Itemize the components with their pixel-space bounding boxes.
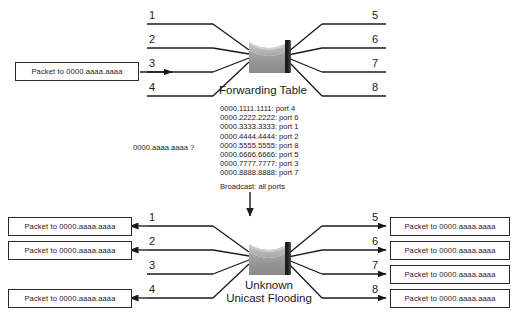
unicast-title-line2: Unicast Flooding [210,292,328,305]
port-number: 2 [149,235,155,247]
forwarding-table-row: 0000.5555.5555: port 8 [220,141,299,150]
port-label-bottom-right-8: 8 [368,283,382,295]
port-number: 3 [149,57,155,69]
packet-label: Packet to 0000.aaaa.aaaa [24,294,115,303]
port-number: 5 [372,211,378,223]
port-label-bottom-right-7: 7 [368,259,382,271]
forwarding-table-title: Forwarding Table [219,84,307,96]
port-number: 7 [372,57,378,69]
packet-label: Packet to 0000.aaaa.aaaa [404,270,495,279]
port-number: 6 [372,235,378,247]
port-label-top-right-5: 5 [368,9,382,21]
port-number: 2 [149,33,155,45]
egress-packet-box-bottom-left-1: Packet to 0000.aaaa.aaaa [8,217,132,236]
port-label-bottom-left-2: 2 [145,235,159,247]
forwarding-table-row: 0000.2222.2222: port 6 [220,113,299,122]
port-number: 8 [372,283,378,295]
port-label-top-left-1: 1 [145,9,159,21]
port-number: 4 [149,283,155,295]
port-label-bottom-right-5: 5 [368,211,382,223]
forwarding-table-row: 0000.4444.4444: port 2 [220,132,299,141]
forwarding-table-row: 0000.3333.3333: port 1 [220,122,299,131]
packet-label: Packet to 0000.aaaa.aaaa [24,246,115,255]
packet-label: Packet to 0000.aaaa.aaaa [404,246,495,255]
egress-packet-box-bottom-right-8: Packet to 0000.aaaa.aaaa [390,289,510,308]
port-label-top-left-2: 2 [145,33,159,45]
packet-label: Packet to 0000.aaaa.aaaa [31,67,122,76]
port-number: 7 [372,259,378,271]
forwarding-table-row: 0000.6666.6666: port 5 [220,150,299,159]
packet-label: Packet to 0000.aaaa.aaaa [404,222,495,231]
port-label-top-left-4: 4 [145,81,159,93]
port-label-top-right-7: 7 [368,57,382,69]
egress-packet-box-bottom-left-2: Packet to 0000.aaaa.aaaa [8,241,132,260]
ingress-packet-box-top: Packet to 0000.aaaa.aaaa [15,62,139,81]
port-label-bottom-left-3: 3 [145,259,159,271]
forwarding-table-row: 0000.8888.8888: port 7 [220,168,299,177]
network-switch-flooding-diagram: Packet to 0000.aaaa.aaaa 1 2 3 4 5 6 7 8… [0,0,515,330]
switch-icon-bottom [249,242,291,275]
switch-icon-top [249,40,291,73]
port-number: 5 [372,9,378,21]
mac-lookup-query-label: 0000.aaaa.aaaa ? [133,143,194,152]
port-label-bottom-left-4: 4 [145,283,159,295]
forwarding-table-row: 0000.7777.7777: port 3 [220,159,299,168]
port-number: 6 [372,33,378,45]
forwarding-table-entries: 0000.1111.1111: port 4 0000.2222.2222: p… [220,104,299,178]
broadcast-all-ports-label: Broadcast: all ports [220,182,285,191]
egress-packet-box-bottom-right-6: Packet to 0000.aaaa.aaaa [390,241,510,260]
unicast-title-line1: Unknown [210,279,328,292]
port-label-bottom-right-6: 6 [368,235,382,247]
forwarding-table-row: 0000.1111.1111: port 4 [220,104,299,113]
port-number: 4 [149,81,155,93]
egress-packet-box-bottom-right-7: Packet to 0000.aaaa.aaaa [390,265,510,284]
packet-label: Packet to 0000.aaaa.aaaa [24,222,115,231]
egress-packet-box-bottom-left-4: Packet to 0000.aaaa.aaaa [8,289,132,308]
port-label-top-left-3: 3 [145,57,159,69]
port-label-bottom-left-1: 1 [145,211,159,223]
egress-packet-box-bottom-right-5: Packet to 0000.aaaa.aaaa [390,217,510,236]
port-label-top-right-6: 6 [368,33,382,45]
port-number: 3 [149,259,155,271]
packet-label: Packet to 0000.aaaa.aaaa [404,294,495,303]
port-label-top-right-8: 8 [368,81,382,93]
unknown-unicast-flooding-title: Unknown Unicast Flooding [210,279,328,305]
port-number: 1 [149,211,155,223]
port-number: 8 [372,81,378,93]
port-number: 1 [149,9,155,21]
